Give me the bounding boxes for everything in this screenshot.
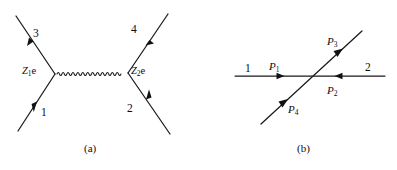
- leg-label-4: 4: [131, 24, 137, 36]
- panel-b-caption: (b): [297, 143, 310, 154]
- leg-2-arrowhead: [146, 90, 152, 100]
- momentum-p2-index: 2: [334, 89, 338, 98]
- panel-b-graphics: [235, 31, 385, 124]
- momentum-p4-index: 4: [295, 108, 299, 117]
- momentum-p2-arrowhead: [335, 73, 343, 79]
- figure-root: 3 4 1 2 Z1e Z2e (a) 1 2 P1 P3 P2 P4 (b): [0, 0, 397, 170]
- momentum-label-p3: P3: [327, 36, 337, 48]
- right-vertex-coupling-label: Z2e: [131, 66, 145, 77]
- leg-4-arrowhead: [146, 40, 155, 46]
- momentum-p1-index: 1: [276, 65, 280, 74]
- momentum-label-p4: P4: [288, 104, 298, 116]
- momentum-p2-symbol: P: [327, 84, 334, 96]
- panel-a-graphics: [16, 14, 170, 134]
- line-label-1: 1: [245, 63, 251, 75]
- line-label-2: 2: [365, 62, 371, 74]
- photon-propagator: [57, 72, 121, 75]
- leg-label-1: 1: [41, 107, 47, 119]
- momentum-p4-symbol: P: [288, 103, 295, 115]
- momentum-label-p1: P1: [269, 61, 279, 73]
- leg-1-arrowhead: [32, 102, 38, 113]
- right-vertex-coupling: e: [141, 65, 146, 76]
- left-vertex-coupling: e: [32, 65, 37, 76]
- diagonal-line: [261, 31, 362, 124]
- panel-a-caption: (a): [84, 143, 96, 154]
- left-vertex-coupling-label: Z1e: [22, 66, 36, 77]
- momentum-p1-symbol: P: [269, 60, 276, 72]
- leg-label-3: 3: [33, 28, 39, 40]
- leg-line-2: [128, 73, 170, 134]
- leg-label-2: 2: [127, 103, 133, 115]
- momentum-p3-symbol: P: [327, 35, 334, 47]
- momentum-p3-index: 3: [334, 40, 338, 49]
- momentum-label-p2: P2: [327, 85, 337, 97]
